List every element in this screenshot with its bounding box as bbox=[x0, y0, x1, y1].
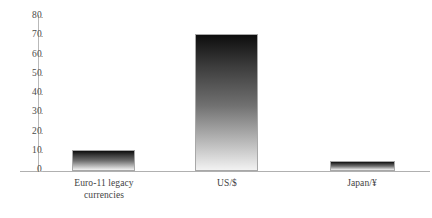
y-axis-tick-mark bbox=[39, 171, 43, 172]
bar bbox=[330, 161, 395, 171]
x-axis-category-label: US/$ bbox=[180, 177, 274, 189]
y-axis-tick-label: 40 bbox=[32, 87, 42, 97]
y-axis-tick-mark bbox=[39, 152, 43, 153]
x-axis-line bbox=[20, 171, 430, 172]
x-axis-category-label: Euro-11 legacy currencies bbox=[56, 177, 152, 201]
y-axis-tick-label: 70 bbox=[32, 29, 42, 39]
y-axis-tick-label: 20 bbox=[32, 126, 42, 136]
y-axis-tick-mark bbox=[39, 133, 43, 134]
y-axis-tick-label: 60 bbox=[32, 49, 42, 59]
y-axis-tick-label: 30 bbox=[32, 106, 42, 116]
y-axis-tick-label: 50 bbox=[32, 68, 42, 78]
y-axis-tick-mark bbox=[39, 36, 43, 37]
y-axis-tick-mark bbox=[39, 94, 43, 95]
bar bbox=[195, 34, 258, 171]
y-axis-tick-label: 80 bbox=[32, 10, 42, 20]
y-axis-tick-label: 0 bbox=[37, 164, 42, 174]
y-axis-tick-mark bbox=[39, 17, 43, 18]
y-axis-tick-mark bbox=[39, 113, 43, 114]
y-axis-tick-label: 10 bbox=[32, 145, 42, 155]
x-axis-category-label: Japan/¥ bbox=[312, 177, 412, 189]
bar bbox=[72, 150, 135, 171]
y-axis-tick-mark bbox=[39, 56, 43, 57]
y-axis-tick-mark bbox=[39, 75, 43, 76]
bar-chart: 80706050403020100 Euro-11 legacy currenc… bbox=[0, 0, 432, 218]
